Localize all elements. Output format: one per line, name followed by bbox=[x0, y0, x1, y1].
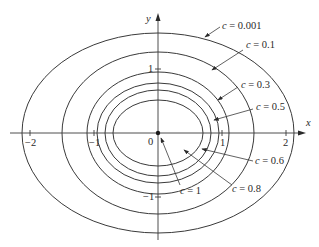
leader-c-0.1 bbox=[212, 50, 243, 70]
label-c-1: cc = 1 = 1 bbox=[180, 185, 201, 196]
origin-point bbox=[156, 131, 160, 135]
x-tick-label-neg2: −2 bbox=[25, 137, 36, 148]
label-c-0.001: cc = 0.001 = 0.001 bbox=[222, 20, 261, 31]
leader-c-1 bbox=[161, 138, 180, 185]
x-tick-label-neg1: −1 bbox=[89, 137, 100, 148]
y-tick-label-neg1: −1 bbox=[143, 191, 154, 202]
leader-c-0.3 bbox=[218, 87, 238, 100]
x-tick-label-1: 1 bbox=[220, 137, 225, 148]
label-c-0.3: cc = 0.3 = 0.3 bbox=[241, 79, 270, 90]
x-axis-label: x bbox=[305, 117, 311, 128]
leader-c-0.5 bbox=[214, 109, 253, 120]
label-c-0.6: cc = 0.6 = 0.6 bbox=[255, 155, 284, 166]
y-axis-arrow-icon bbox=[156, 13, 161, 21]
label-c-0.8: cc = 0.8 = 0.8 bbox=[232, 183, 261, 194]
origin-label: 0 bbox=[148, 136, 153, 147]
label-c-0.5: cc = 0.5 = 0.5 bbox=[256, 101, 285, 112]
x-axis-arrow-icon bbox=[298, 131, 306, 136]
y-axis-label: y bbox=[145, 13, 151, 24]
leader-c-0.001 bbox=[205, 27, 220, 37]
level-curves-diagram: x y 0 −2 −1 1 2 1 −1 cc = 0.001 = 0.001 … bbox=[0, 0, 319, 247]
y-tick-label-1: 1 bbox=[148, 63, 153, 74]
label-c-0.1: cc = 0.1 = 0.1 bbox=[246, 39, 275, 50]
x-tick-label-2: 2 bbox=[283, 137, 288, 148]
